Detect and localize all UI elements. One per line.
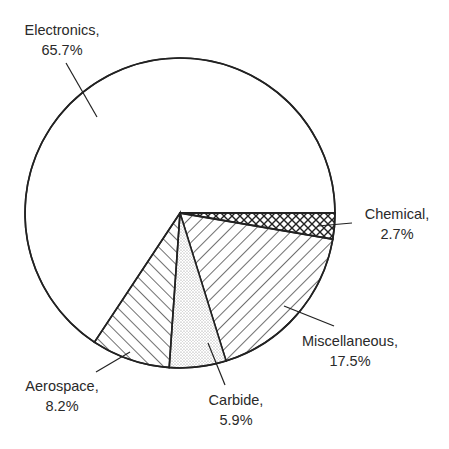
leader-aerospace [96,352,130,372]
label-miscellaneous-name: Miscellaneous, [302,333,398,349]
label-chemical-name: Chemical, [365,206,429,222]
label-aerospace: Aerospace, 8.2% [25,378,98,414]
label-chemical-value: 2.7% [380,226,413,242]
label-miscellaneous-value: 17.5% [329,353,370,369]
label-electronics-value: 65.7% [41,42,82,58]
label-carbide: Carbide, 5.9% [209,392,264,428]
label-miscellaneous: Miscellaneous, 17.5% [302,333,398,369]
pie-chart: Electronics, 65.7% Chemical, 2.7% Miscel… [0,0,449,449]
label-electronics: Electronics, 65.7% [25,22,100,58]
label-chemical: Chemical, 2.7% [365,206,429,242]
label-electronics-name: Electronics, [25,22,100,38]
label-aerospace-value: 8.2% [45,398,78,414]
label-aerospace-name: Aerospace, [25,378,98,394]
label-carbide-name: Carbide, [209,392,264,408]
label-carbide-value: 5.9% [219,412,252,428]
